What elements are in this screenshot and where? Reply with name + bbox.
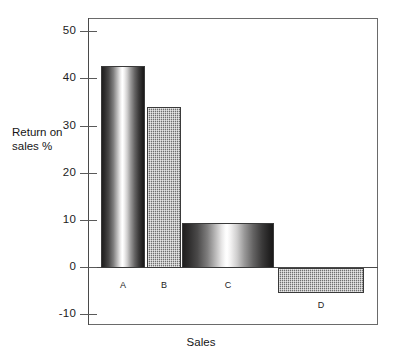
y-tick-mark-neg10 xyxy=(80,314,97,315)
y-tick-mark-50 xyxy=(80,31,97,32)
y-axis-line xyxy=(88,18,89,325)
y-tick-label-0: 0 xyxy=(69,261,76,273)
y-tick-label-20: 20 xyxy=(63,167,76,179)
y-tick-mark-10 xyxy=(80,220,97,221)
y-axis-title: Return on sales % xyxy=(12,126,86,153)
bar-d xyxy=(278,268,364,293)
y-tick-label-40: 40 xyxy=(63,72,76,84)
bar-a xyxy=(101,66,145,268)
category-label-d: D xyxy=(278,301,364,310)
x-axis-title: Sales xyxy=(0,336,402,349)
category-label-c: C xyxy=(182,281,274,290)
category-label-b: B xyxy=(147,281,181,290)
y-tick-mark-20 xyxy=(80,173,97,174)
bar-c xyxy=(182,223,274,268)
y-tick-label-50: 50 xyxy=(63,25,76,37)
y-tick-mark-0 xyxy=(80,267,97,268)
y-tick-mark-40 xyxy=(80,78,97,79)
y-tick-label-neg10: -10 xyxy=(59,308,76,320)
y-tick-label-10: 10 xyxy=(63,214,76,226)
bar-b xyxy=(147,107,181,268)
category-label-a: A xyxy=(101,281,145,290)
bar-chart: 50 40 30 20 10 0 -10 Return on sales % S… xyxy=(0,0,402,363)
